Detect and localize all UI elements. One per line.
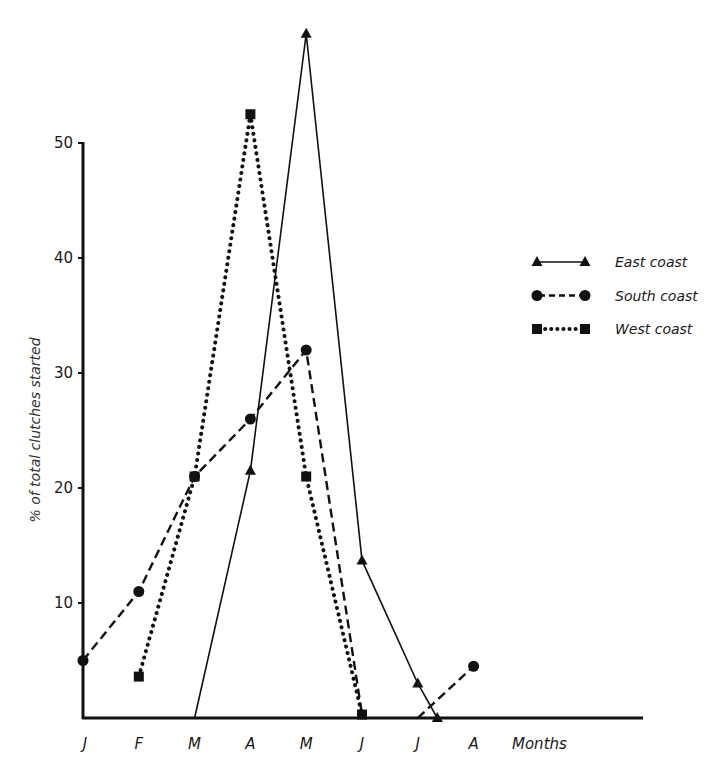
data-point-triangle bbox=[412, 678, 423, 688]
y-tick-label: 30 bbox=[54, 364, 73, 382]
legend-marker-circle bbox=[580, 290, 591, 301]
data-point-triangle bbox=[357, 554, 368, 564]
data-point-circle bbox=[301, 345, 312, 356]
data-point-circle bbox=[468, 661, 479, 672]
x-tick-label: A bbox=[467, 735, 478, 753]
y-tick-label: 50 bbox=[54, 134, 73, 152]
y-tick-label: 40 bbox=[54, 249, 73, 267]
data-point-circle bbox=[78, 655, 89, 666]
data-point-square bbox=[357, 710, 367, 720]
data-point-square bbox=[134, 672, 144, 682]
legend-item: East coast bbox=[532, 254, 688, 270]
data-point-circle bbox=[245, 414, 256, 425]
y-tick-label: 10 bbox=[54, 594, 73, 612]
legend-marker-triangle bbox=[580, 256, 591, 266]
legend-item: South coast bbox=[532, 288, 699, 304]
x-tick-label: A bbox=[244, 735, 255, 753]
legend-marker-square bbox=[580, 324, 590, 334]
legend-marker-triangle bbox=[532, 256, 543, 266]
data-point-square bbox=[301, 472, 311, 482]
x-tick-label: J bbox=[413, 735, 420, 753]
x-tick-label: F bbox=[134, 735, 143, 753]
data-point-square bbox=[245, 109, 255, 119]
series-line bbox=[195, 34, 438, 718]
legend-item: West coast bbox=[532, 321, 693, 337]
series-line bbox=[418, 666, 474, 718]
data-point-square bbox=[190, 472, 200, 482]
x-tick-label: J bbox=[357, 735, 364, 753]
legend-label: East coast bbox=[615, 254, 688, 270]
x-tick-label: J bbox=[80, 735, 87, 753]
series-south-coast bbox=[78, 345, 480, 719]
y-axis-title: % of total clutches started bbox=[27, 337, 43, 522]
chart: 1020304050JFMAMJJA East coastSouth coast… bbox=[0, 0, 714, 766]
legend-label: South coast bbox=[615, 288, 698, 304]
series-east-coast bbox=[195, 28, 443, 722]
x-axis-title: Months bbox=[512, 735, 567, 753]
data-point-triangle bbox=[301, 28, 312, 38]
legend-label: West coast bbox=[615, 321, 693, 337]
x-tick-label: M bbox=[300, 735, 313, 753]
legend-marker-square bbox=[532, 324, 542, 334]
data-point-triangle bbox=[245, 465, 256, 475]
y-tick-label: 20 bbox=[54, 479, 73, 497]
legend: East coastSouth coastWest coast bbox=[532, 254, 699, 337]
x-tick-label: M bbox=[188, 735, 201, 753]
legend-marker-circle bbox=[532, 290, 543, 301]
data-point-circle bbox=[133, 586, 144, 597]
